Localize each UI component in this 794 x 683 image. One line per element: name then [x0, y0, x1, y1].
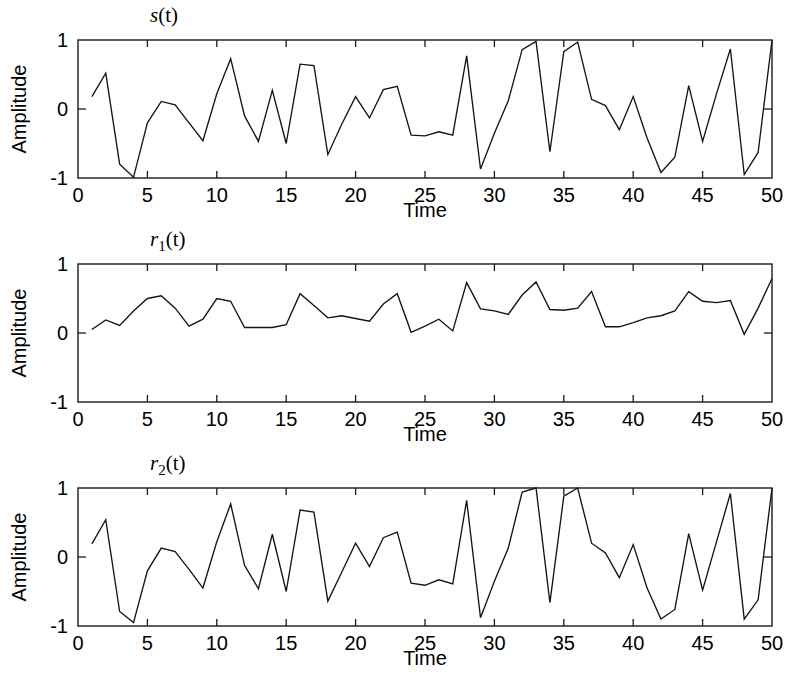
data-series-line	[92, 278, 772, 334]
x-tick-label: 30	[483, 408, 505, 430]
x-tick-label: 20	[344, 632, 366, 654]
x-tick-label: 40	[622, 184, 644, 206]
panel-r1-of-t: 05101520253035404550-101AmplitudeTimer1(…	[0, 224, 794, 452]
y-tick-label: 0	[57, 98, 68, 120]
x-tick-label: 40	[622, 632, 644, 654]
panel-title-tail: (t)	[158, 3, 178, 27]
axes-frame	[78, 488, 772, 626]
x-tick-label: 35	[553, 632, 575, 654]
panel-title-subscript: 2	[158, 462, 166, 478]
x-tick-label: 15	[275, 184, 297, 206]
x-axis-title: Time	[403, 199, 447, 221]
y-axis-title: Amplitude	[8, 513, 30, 602]
figure-multipanel-timeseries: 05101520253035404550-101AmplitudeTimes(t…	[0, 0, 794, 683]
panel-r2-of-t: 05101520253035404550-101AmplitudeTimer2(…	[0, 448, 794, 683]
x-tick-label: 15	[275, 632, 297, 654]
x-tick-label: 15	[275, 408, 297, 430]
y-axis-title: Amplitude	[8, 65, 30, 154]
x-tick-label: 50	[761, 184, 783, 206]
y-tick-label: -1	[50, 615, 68, 637]
x-tick-label: 20	[344, 408, 366, 430]
axes-frame	[78, 40, 772, 178]
x-tick-label: 50	[761, 632, 783, 654]
panel-title-tail: (t)	[166, 227, 186, 251]
x-tick-label: 45	[691, 408, 713, 430]
panel-title: r2(t)	[150, 451, 186, 478]
x-tick-label: 30	[483, 632, 505, 654]
x-tick-label: 5	[142, 408, 153, 430]
x-tick-label: 0	[72, 184, 83, 206]
x-tick-label: 10	[206, 632, 228, 654]
x-tick-label: 30	[483, 184, 505, 206]
x-tick-label: 10	[206, 184, 228, 206]
x-tick-label: 5	[142, 184, 153, 206]
x-tick-label: 0	[72, 632, 83, 654]
y-tick-label: 1	[57, 29, 68, 51]
y-tick-label: -1	[50, 167, 68, 189]
x-tick-label: 40	[622, 408, 644, 430]
data-series-line	[92, 488, 772, 623]
x-tick-label: 35	[553, 408, 575, 430]
plot-area-1: 05101520253035404550-101AmplitudeTimer1(…	[0, 224, 794, 452]
x-tick-label: 20	[344, 184, 366, 206]
y-tick-label: 0	[57, 546, 68, 568]
data-series-line	[92, 40, 772, 177]
panel-title-tail: (t)	[166, 451, 186, 475]
y-tick-label: 1	[57, 477, 68, 499]
x-tick-label: 5	[142, 632, 153, 654]
panel-title-base: s	[150, 3, 158, 27]
x-tick-label: 45	[691, 184, 713, 206]
panel-title: s(t)	[150, 3, 178, 27]
x-axis-title: Time	[403, 647, 447, 669]
panel-title-subscript: 1	[158, 238, 166, 254]
x-tick-label: 35	[553, 184, 575, 206]
panel-title: r1(t)	[150, 227, 186, 254]
plot-area-0: 05101520253035404550-101AmplitudeTimes(t…	[0, 0, 794, 228]
x-tick-label: 10	[206, 408, 228, 430]
x-tick-label: 0	[72, 408, 83, 430]
x-axis-title: Time	[403, 423, 447, 445]
x-tick-label: 50	[761, 408, 783, 430]
y-tick-label: 0	[57, 322, 68, 344]
plot-area-2: 05101520253035404550-101AmplitudeTimer2(…	[0, 448, 794, 683]
x-tick-label: 45	[691, 632, 713, 654]
axes-frame	[78, 264, 772, 402]
y-tick-label: -1	[50, 391, 68, 413]
y-axis-title: Amplitude	[8, 289, 30, 378]
y-tick-label: 1	[57, 253, 68, 275]
panel-s-of-t: 05101520253035404550-101AmplitudeTimes(t…	[0, 0, 794, 228]
